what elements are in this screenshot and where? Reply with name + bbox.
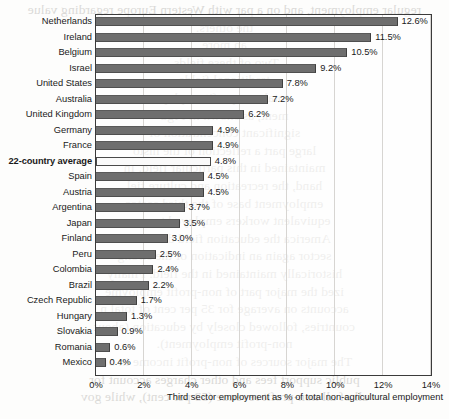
category-label: 22-country average (0, 154, 92, 170)
category-label: Hungary (0, 309, 92, 325)
category-label: Colombia (0, 262, 92, 278)
x-tick-label: 4% (185, 379, 198, 391)
bar (96, 312, 127, 321)
value-label: 3.0% (172, 231, 193, 247)
value-label: 7.2% (272, 92, 293, 108)
bar-row: Mexico0.4% (0, 355, 449, 371)
bar (96, 110, 244, 119)
value-label: 3.7% (189, 200, 210, 216)
bar (96, 141, 213, 150)
category-label: Israel (0, 61, 92, 77)
bar-row: Ireland11.5% (0, 30, 449, 46)
category-label: Spain (0, 169, 92, 185)
bar-row: Germany4.9% (0, 123, 449, 139)
x-tick-label: 12% (374, 379, 393, 391)
bar-row: Austria4.5% (0, 185, 449, 201)
bar (96, 296, 137, 305)
bar (96, 281, 149, 290)
bar-row: 22-country average4.8% (0, 154, 449, 170)
category-label: United States (0, 76, 92, 92)
category-label: Australia (0, 92, 92, 108)
value-label: 4.9% (217, 138, 238, 154)
category-label: Peru (0, 247, 92, 263)
bar-row: Australia7.2% (0, 92, 449, 108)
bar-row: Czech Republic1.7% (0, 293, 449, 309)
bar-row: United Kingdom6.2% (0, 107, 449, 123)
category-label: Belgium (0, 45, 92, 61)
x-tick-label: 8% (281, 379, 294, 391)
value-label: 0.6% (114, 340, 135, 356)
bar-row: Japan3.5% (0, 216, 449, 232)
bar (96, 188, 204, 197)
bar (96, 33, 371, 42)
bar-row: Brazil2.2% (0, 278, 449, 294)
bar-row: Colombia2.4% (0, 262, 449, 278)
value-label: 2.4% (157, 262, 178, 278)
bar-row: Peru2.5% (0, 247, 449, 263)
category-label: Brazil (0, 278, 92, 294)
bar (96, 48, 347, 57)
category-label: Czech Republic (0, 293, 92, 309)
value-label: 2.2% (153, 278, 174, 294)
category-label: Austria (0, 185, 92, 201)
category-label: Argentina (0, 200, 92, 216)
bar-row: Spain4.5% (0, 169, 449, 185)
value-label: 4.8% (215, 154, 236, 170)
bar (96, 358, 106, 367)
value-label: 1.7% (141, 293, 162, 309)
value-label: 7.8% (287, 76, 308, 92)
bar-row: Israel9.2% (0, 61, 449, 77)
x-tick-label: 2% (137, 379, 150, 391)
bar (96, 172, 204, 181)
x-tick-label: 0% (89, 379, 102, 391)
category-label: France (0, 138, 92, 154)
bar (96, 17, 398, 26)
x-axis-title: Third sector employment as % of total no… (0, 392, 443, 402)
bar (96, 219, 180, 228)
bar (96, 95, 268, 104)
bar (96, 250, 156, 259)
value-label: 4.5% (208, 185, 229, 201)
value-label: 1.3% (131, 309, 152, 325)
category-label: Romania (0, 340, 92, 356)
x-axis-ticks: 0%2%4%6%8%10%12%14% (0, 379, 449, 393)
bar-row: Belgium10.5% (0, 45, 449, 61)
category-label: Mexico (0, 355, 92, 371)
x-tick-label: 6% (233, 379, 246, 391)
value-label: 11.5% (375, 30, 401, 46)
value-label: 0.4% (110, 355, 131, 371)
value-label: 4.5% (208, 169, 229, 185)
category-label: United Kingdom (0, 107, 92, 123)
category-label: Slovakia (0, 324, 92, 340)
bar-highlight (96, 157, 211, 166)
category-label: Ireland (0, 30, 92, 46)
bar (96, 234, 168, 243)
bar-row: Finland3.0% (0, 231, 449, 247)
bar (96, 343, 110, 352)
bar (96, 126, 213, 135)
bar (96, 327, 118, 336)
bar-row: Romania0.6% (0, 340, 449, 356)
value-label: 4.9% (217, 123, 238, 139)
category-label: Finland (0, 231, 92, 247)
category-label: Germany (0, 123, 92, 139)
bar-row: Slovakia0.9% (0, 324, 449, 340)
bar-row: Netherlands12.6% (0, 14, 449, 30)
value-label: 9.2% (320, 61, 341, 77)
bar (96, 79, 283, 88)
x-tick-label: 10% (326, 379, 345, 391)
category-label: Japan (0, 216, 92, 232)
category-label: Netherlands (0, 14, 92, 30)
bar (96, 265, 153, 274)
value-label: 6.2% (248, 107, 269, 123)
value-label: 10.5% (351, 45, 377, 61)
value-label: 12.6% (402, 14, 428, 30)
bar (96, 203, 185, 212)
bar-row: France4.9% (0, 138, 449, 154)
value-label: 2.5% (160, 247, 181, 263)
bar-row: Hungary1.3% (0, 309, 449, 325)
scanned-figure-page: regular employment, and on a par with We… (0, 0, 449, 419)
bar-row: Argentina3.7% (0, 200, 449, 216)
value-label: 0.9% (122, 324, 143, 340)
bar (96, 64, 316, 73)
